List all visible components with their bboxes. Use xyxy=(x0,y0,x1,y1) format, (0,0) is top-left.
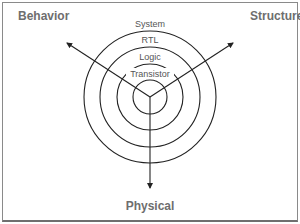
level-transistor-label: Transistor xyxy=(130,69,170,79)
level-rtl-label: RTL xyxy=(142,35,159,45)
y-chart: System RTL Logic Transistor xyxy=(0,0,300,224)
level-system-label: System xyxy=(135,19,165,29)
level-logic-label: Logic xyxy=(139,52,161,62)
